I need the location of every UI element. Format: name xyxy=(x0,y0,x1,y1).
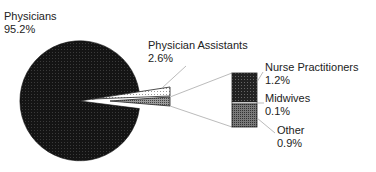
label-np-name: Nurse Practitioners xyxy=(265,61,359,74)
label-physicians-pct: 95.2% xyxy=(4,23,57,36)
stack-nurse-practitioners xyxy=(232,73,257,102)
label-physicians-name: Physicians xyxy=(4,10,57,23)
leader-other xyxy=(257,118,275,133)
label-mw-pct: 0.1% xyxy=(265,105,310,118)
leader-np xyxy=(257,72,263,82)
label-other-name: Other xyxy=(277,124,305,137)
label-midwives: Midwives 0.1% xyxy=(265,92,310,118)
label-nurse-practitioners: Nurse Practitioners 1.2% xyxy=(265,61,359,87)
connector-bottom xyxy=(170,106,232,127)
label-np-pct: 1.2% xyxy=(265,74,359,87)
label-physician-assistants: Physician Assistants 2.6% xyxy=(148,39,248,65)
stack-other xyxy=(232,104,257,127)
label-pa-pct: 2.6% xyxy=(148,52,248,65)
label-mw-name: Midwives xyxy=(265,92,310,105)
label-other-pct: 0.9% xyxy=(277,137,305,150)
leader-pa xyxy=(162,66,186,88)
connector-top xyxy=(170,73,232,97)
label-other: Other 0.9% xyxy=(277,124,305,150)
label-physicians: Physicians 95.2% xyxy=(4,10,57,36)
label-pa-name: Physician Assistants xyxy=(148,39,248,52)
